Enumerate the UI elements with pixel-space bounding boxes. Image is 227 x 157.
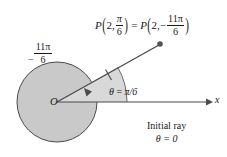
point-p-label: P(2,π6) = P(2,−11π6) <box>95 13 190 37</box>
paren-close-second: ) <box>185 16 189 36</box>
theta-symbol: θ <box>109 86 114 97</box>
angle-denominator-negative: 6 <box>167 26 184 38</box>
negative-angle-fraction: 11π6 <box>34 41 53 66</box>
theta-value: π/6 <box>125 86 138 97</box>
paren-close-first: ) <box>124 16 128 36</box>
paren-open-first: ( <box>102 16 106 36</box>
negative-angle-numerator: 11π <box>34 41 53 54</box>
angle-numerator-negative: 11π <box>167 13 184 26</box>
point-comma-first: , <box>112 19 115 31</box>
paren-open-second: ( <box>147 16 151 36</box>
point-p-marker <box>157 41 163 47</box>
point-p-letter-first: P <box>95 19 102 31</box>
negative-sign: − <box>160 19 166 31</box>
angle-denominator-positive: 6 <box>116 26 123 38</box>
negative-angle-denominator: 6 <box>34 54 53 66</box>
angle-fraction-positive: π6 <box>116 13 123 37</box>
initial-ray-caption: Initial ray θ = 0 <box>147 120 186 145</box>
negative-angle-label: −11π6 <box>28 41 52 66</box>
initial-ray-text: Initial ray <box>147 120 186 133</box>
theta-value-label: θ = π/6 <box>109 87 137 98</box>
point-p-letter-second: P <box>140 19 147 31</box>
origin-label: O <box>50 96 58 107</box>
x-axis-label: x <box>215 95 219 106</box>
polar-coordinate-diagram: P(2,π6) = P(2,−11π6) θ = π/6 −11π6 Initi… <box>0 0 227 157</box>
angle-numerator-positive: π <box>116 13 123 26</box>
equals-sign: = <box>131 19 137 31</box>
initial-ray-angle: θ = 0 <box>147 133 186 146</box>
x-axis-arrowhead <box>206 98 213 105</box>
theta-equals: = <box>116 86 122 97</box>
angle-fraction-negative: 11π6 <box>167 13 184 37</box>
